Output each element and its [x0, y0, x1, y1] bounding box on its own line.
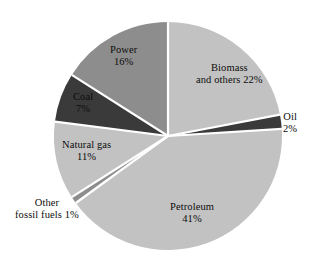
pie-label-petroleum: Petroleum41%	[170, 201, 214, 225]
pie-label-line2: 41%	[170, 213, 214, 225]
pie-label-line1: Other	[15, 197, 79, 209]
pie-label-biomass-and-others: Biomassand others 22%	[196, 62, 263, 86]
pie-label-line2: 2%	[283, 123, 297, 135]
pie-label-line1: Coal	[73, 91, 93, 103]
pie-label-line1: Oil	[283, 111, 297, 123]
pie-label-oil: Oil2%	[283, 111, 297, 135]
pie-label-line2: fossil fuels 1%	[15, 209, 79, 221]
pie-label-coal: Coal7%	[73, 91, 93, 115]
pie-label-line2: 11%	[62, 151, 111, 163]
pie-label-line1: Power	[110, 44, 137, 56]
pie-label-power: Power16%	[110, 44, 137, 68]
pie-label-line1: Natural gas	[62, 139, 111, 151]
pie-label-line2: and others 22%	[196, 74, 263, 86]
pie-label-line1: Petroleum	[170, 201, 214, 213]
pie-label-natural-gas: Natural gas11%	[62, 139, 111, 163]
pie-chart-svg	[0, 0, 314, 265]
pie-label-line2: 7%	[73, 103, 93, 115]
pie-label-line1: Biomass	[196, 62, 263, 74]
pie-chart: Biomassand others 22%Oil2%Petroleum41%Ot…	[0, 0, 314, 265]
pie-label-other-fossil-fuels: Otherfossil fuels 1%	[15, 197, 79, 221]
pie-label-line2: 16%	[110, 56, 137, 68]
